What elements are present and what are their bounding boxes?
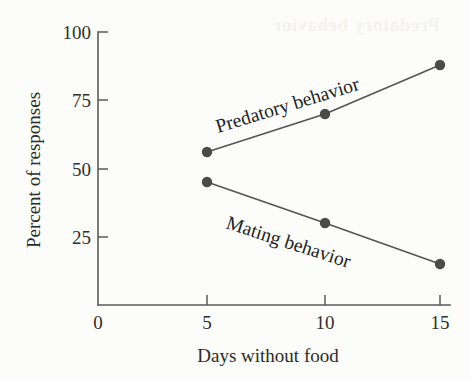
axis-group xyxy=(98,32,450,305)
y-tick-labels: 100 75 50 25 xyxy=(63,22,92,248)
x-axis-title: Days without food xyxy=(197,345,339,366)
y-axis-title: Percent of responses xyxy=(23,92,44,248)
y-tick-label-75: 75 xyxy=(72,90,91,111)
y-tick-label-50: 50 xyxy=(72,159,91,180)
x-tick-label-10: 10 xyxy=(316,312,335,333)
series-label-mating: Mating behavior xyxy=(224,212,354,272)
x-tick-label-15: 15 xyxy=(431,312,450,333)
x-tick-label-0: 0 xyxy=(93,312,103,333)
x-tick-labels: 0 5 10 15 xyxy=(93,312,449,333)
x-tick-label-5: 5 xyxy=(202,312,212,333)
series-mating-point-10 xyxy=(320,218,330,228)
series-mating-point-5 xyxy=(202,177,212,187)
series-predatory-behavior: Predatory behavior xyxy=(202,60,445,157)
y-tick-label-25: 25 xyxy=(72,227,91,248)
series-predatory-point-5 xyxy=(202,147,212,157)
line-chart-plot: 100 75 50 25 0 5 10 15 Days without food… xyxy=(0,0,470,380)
series-mating-behavior: Mating behavior xyxy=(202,177,445,272)
series-mating-point-15 xyxy=(435,259,445,269)
series-predatory-point-15 xyxy=(435,60,445,70)
series-label-predatory: Predatory behavior xyxy=(213,73,362,137)
chart-figure: Predatory behavior 100 75 50 25 0 xyxy=(0,0,470,380)
series-predatory-point-10 xyxy=(320,109,330,119)
y-tick-label-100: 100 xyxy=(63,22,92,43)
